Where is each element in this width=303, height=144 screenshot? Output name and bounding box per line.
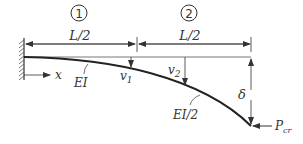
stiffness-label-ei: EI	[73, 64, 88, 90]
svg-text:L/2: L/2	[178, 28, 200, 43]
deflection-v1: v1	[120, 57, 133, 85]
dimension-segment-1: L/2	[26, 28, 137, 52]
pcr-label: Pcr	[274, 119, 293, 135]
x-axis: x	[24, 68, 62, 82]
svg-text:1: 1	[75, 7, 83, 21]
svg-text:EI/2: EI/2	[172, 108, 198, 122]
fixed-support	[19, 38, 24, 80]
v1-label: v1	[120, 69, 133, 85]
critical-load: Pcr	[253, 119, 293, 135]
svg-text:δ: δ	[238, 87, 246, 102]
v2-label: v2	[168, 63, 181, 79]
tip-deflection-delta: δ	[238, 59, 251, 124]
beam-diagram: 1 2 L/2 L/2 x v1 v2 EI	[0, 0, 303, 144]
diagram-canvas: 1 2 L/2 L/2 x v1 v2 EI	[0, 0, 303, 144]
svg-text:2: 2	[185, 7, 193, 21]
svg-text:L/2: L/2	[68, 28, 90, 43]
segment-2-marker: 2	[181, 5, 197, 21]
svg-text:x: x	[55, 68, 62, 82]
dimension-segment-2: L/2	[139, 28, 251, 52]
svg-text:EI: EI	[73, 76, 88, 90]
stiffness-label-ei-half: EI/2	[172, 95, 200, 122]
segment-1-marker: 1	[71, 5, 87, 21]
